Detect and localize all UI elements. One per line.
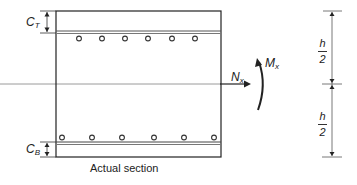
cover-top-label: CT [26, 16, 40, 30]
cover-bottom-dimension [40, 142, 56, 157]
section-diagram [0, 0, 357, 185]
bottom-bars [60, 135, 217, 140]
moment-label: Mx [265, 57, 279, 71]
half-depth-top-label: h2 [318, 38, 327, 65]
top-bars [77, 36, 198, 41]
diagram-caption: Actual section [90, 162, 158, 174]
half-depth-bottom-label: h2 [318, 111, 327, 138]
cover-top-dimension [40, 11, 56, 33]
axial-force-label: Nx [231, 71, 244, 85]
moment-arrow [255, 58, 263, 110]
cover-bottom-label: CB [26, 143, 40, 157]
